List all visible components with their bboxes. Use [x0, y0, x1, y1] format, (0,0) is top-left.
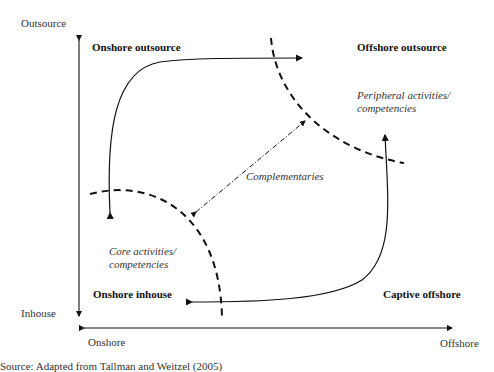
axis-label-onshore: Onshore — [88, 336, 125, 348]
core-line-1: Core activities/ — [109, 245, 176, 258]
complementaries-dashdot-arrow — [196, 121, 305, 212]
quadrant-captive-offshore: Captive offshore — [383, 288, 461, 300]
quadrant-onshore-outsource: Onshore outsource — [92, 41, 181, 53]
core-activities-label: Core activities/ competencies — [109, 245, 176, 271]
axis-label-outsource: Outsource — [21, 17, 66, 29]
peripheral-line-1: Peripheral activities/ — [357, 89, 450, 102]
source-caption: Source: Adapted from Tallman and Weitzel… — [0, 360, 222, 372]
core-line-2: competencies — [109, 258, 176, 271]
quadrant-offshore-outsource: Offshore outsource — [357, 41, 447, 53]
captive-offshore-flow-arrow — [192, 135, 388, 302]
complementaries-label: Complementaries — [246, 170, 324, 183]
onshore-to-outsource-arrow — [109, 58, 302, 213]
axis-label-offshore: Offshore — [440, 337, 479, 349]
quadrant-onshore-inhouse: Onshore inhouse — [93, 288, 172, 300]
peripheral-activities-label: Peripheral activities/ competencies — [357, 89, 450, 115]
axis-label-inhouse: Inhouse — [21, 307, 56, 319]
peripheral-line-2: competencies — [357, 102, 450, 115]
